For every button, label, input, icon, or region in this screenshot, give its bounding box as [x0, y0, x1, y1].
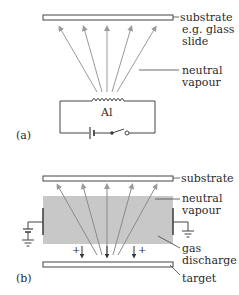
ion-sign-left: +: [72, 244, 80, 255]
substrate-plate-b: [43, 176, 173, 181]
substrate-label-a-line1: substrate: [180, 12, 233, 23]
discharge-label-line1: gas: [182, 243, 201, 254]
discharge-label-line2: discharge: [182, 255, 237, 266]
substrate-label-a-line2: e.g. glass: [182, 24, 234, 35]
substrate-label-b: substrate: [181, 173, 234, 184]
vapour-label-b-line1: neutral: [182, 193, 222, 204]
substrate-label-a-line3: slide: [182, 36, 208, 47]
filament-coil-icon: [92, 99, 125, 102]
panel-a: [43, 15, 179, 139]
vapour-label-b-line2: vapour: [182, 205, 221, 216]
switch-lever-icon: [112, 129, 124, 133]
panel-a-label: (a): [16, 130, 31, 141]
panel-b-label: (b): [16, 273, 32, 284]
switch-contact-icon: [125, 131, 129, 135]
panel-b: [22, 176, 194, 275]
vapour-arrows-a: [60, 28, 155, 92]
target-plate: [43, 262, 173, 267]
substrate-plate-a: [43, 15, 173, 20]
gas-discharge-region: [43, 196, 173, 244]
left-electrode-circuit: [22, 208, 43, 246]
target-label: target: [182, 273, 216, 284]
filament-label: Al: [101, 107, 112, 118]
ion-sign-right: +: [138, 244, 146, 255]
ion-arrows: [82, 246, 134, 256]
vapour-label-a-line1: neutral: [182, 65, 222, 76]
vapour-label-a-line2: vapour: [182, 77, 221, 88]
target-leader: [170, 265, 180, 275]
